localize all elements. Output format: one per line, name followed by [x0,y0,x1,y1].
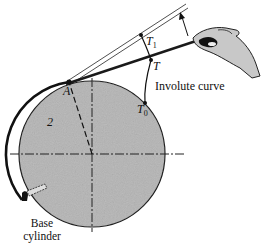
hand-icon [193,27,260,78]
label-point-a: A [63,85,70,97]
label-point-t1: T1 [146,35,157,50]
point-t1-marker [139,33,143,37]
involute-diagram: A T T1 T0 2 Involute curve Base cylinder [0,0,268,251]
label-base-cylinder-line1: Base [14,217,70,230]
label-point-t: T [153,60,160,72]
label-radius: 2 [47,116,53,128]
label-involute-curve: Involute curve [155,80,225,92]
label-point-t0-sub: 0 [144,109,148,118]
label-point-t1-sub: 1 [153,41,157,50]
cord-line [66,41,196,84]
tangent-dashed [69,4,188,84]
label-base-cylinder: Base cylinder [14,217,70,243]
label-base-cylinder-line2: cylinder [14,230,70,243]
rotation-arrow [179,12,188,36]
label-point-t1-main: T [146,34,153,48]
label-point-t0: T0 [137,103,148,118]
diagram-graphics [0,0,268,251]
label-point-t0-main: T [137,102,144,116]
